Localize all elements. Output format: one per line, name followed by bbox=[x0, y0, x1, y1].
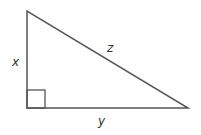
triangle-outline bbox=[27, 11, 188, 108]
right-angle-marker bbox=[27, 90, 45, 108]
label-vertical-leg: x bbox=[11, 55, 20, 69]
label-horizontal-leg: y bbox=[97, 114, 106, 128]
right-triangle-diagram: x z y bbox=[0, 0, 201, 135]
label-hypotenuse: z bbox=[106, 41, 114, 55]
